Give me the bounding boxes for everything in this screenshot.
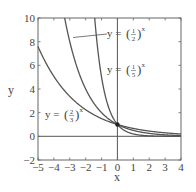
exponential-chart: −5−4−3−2−101234 −20246810 x y y = ( 1 2 … [0,0,196,192]
y-axis-label: y [8,83,14,97]
y-tick-label: 0 [30,130,36,142]
x-tick-label: 3 [162,161,168,173]
x-tick-label: 4 [178,161,184,173]
frac-den: 5 [132,71,136,79]
curve-label-half-prefix: y = [107,27,121,39]
y-ticks: −20246810 [23,12,181,166]
y-tick-label: 6 [30,59,36,71]
frac-den: 3 [70,116,74,124]
plot-frame [38,18,181,160]
curve-label-half: y = ( 1 2 ) x [107,25,146,43]
x-axis-label: x [114,170,120,184]
y-tick-label: 2 [30,107,36,119]
curve-label-fifth-prefix: y = [107,63,121,75]
x-tick-label: −4 [48,161,60,173]
curve-y-1-2-x [65,18,181,136]
exponent: x [142,25,146,33]
x-tick-label: 2 [146,161,152,173]
y-tick-label: 10 [24,12,36,24]
x-tick-label: 1 [131,161,137,173]
curve-y-2-3-x [38,47,181,135]
paren-open: ( [64,107,68,122]
x-ticks: −5−4−3−2−101234 [32,18,184,173]
common-point-marker [115,122,119,126]
y-tick-label: 8 [30,36,36,48]
curve-label-twothirds: y = ( 2 3 ) x [45,106,84,124]
x-tick-label: −1 [96,161,108,173]
x-tick-label: −2 [80,161,92,173]
y-tick-label: −2 [23,154,35,166]
frac-den: 2 [132,35,136,43]
label-pointer-half [73,34,107,38]
curve-label-twothirds-prefix: y = [45,108,59,120]
paren-open: ( [126,26,130,41]
exponent: x [80,106,84,114]
x-tick-label: −3 [64,161,76,173]
paren-open: ( [126,62,130,77]
y-tick-label: 4 [30,83,36,95]
exponent: x [142,61,146,69]
curve-label-fifth: y = ( 1 5 ) x [107,61,146,79]
